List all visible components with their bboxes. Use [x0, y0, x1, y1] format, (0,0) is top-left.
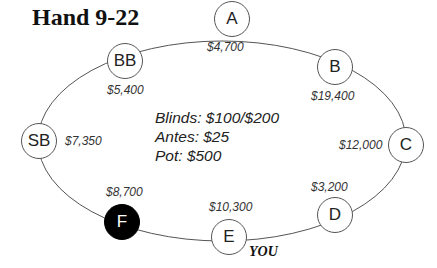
- stack-f: $8,700: [106, 185, 143, 199]
- stack-d: $3,200: [311, 180, 348, 194]
- stack-b: $19,400: [311, 89, 354, 103]
- seat-e: E: [211, 219, 247, 255]
- pot-text: Pot: $500: [155, 146, 279, 165]
- seat-a: A: [214, 1, 250, 37]
- stack-a: $4,700: [207, 40, 244, 54]
- you-label: YOU: [249, 244, 278, 260]
- stack-c: $12,000: [339, 138, 382, 152]
- stack-sb: $7,350: [65, 134, 102, 148]
- seat-sb: SB: [21, 123, 57, 159]
- seat-b: B: [317, 49, 353, 85]
- seat-d: D: [317, 197, 353, 233]
- stack-e: $10,300: [209, 200, 252, 214]
- blinds-text: Blinds: $100/$200: [155, 108, 279, 127]
- stack-bb: $5,400: [107, 83, 144, 97]
- seat-c: C: [388, 127, 424, 163]
- antes-text: Antes: $25: [155, 127, 279, 146]
- seat-bb: BB: [107, 43, 143, 79]
- seat-f: F: [104, 204, 140, 240]
- hand-info: Blinds: $100/$200 Antes: $25 Pot: $500: [155, 108, 279, 165]
